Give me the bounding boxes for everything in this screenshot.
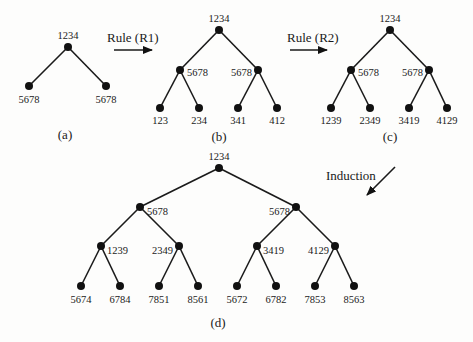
tree-node [347,66,355,74]
edge [29,47,68,86]
tree-node [25,82,33,90]
rule-r1-arrow: Rule (R1) [107,30,159,50]
node-label: 1234 [209,13,231,24]
tree-node [233,282,241,290]
node-label: 412 [269,115,285,126]
tree-node [136,203,144,211]
caption-b: (b) [211,129,226,144]
tree-node [194,282,202,290]
tree-b: 1234 5678 5678 123 234 341 412 (b) [152,13,285,144]
tree-node [253,242,261,250]
node-label: 234 [191,115,208,126]
tree-node [102,82,110,90]
tree-node [254,66,262,74]
tree-c: 1234 5678 5678 1239 2349 3419 4129 (c) [321,13,458,144]
node-label: 5678 [402,67,423,78]
node-label: 3419 [263,245,284,256]
diagram-canvas: 1234 5678 5678 (a) Rule (R1) 1234 5678 5… [0,0,473,342]
tree-node [386,26,394,34]
induction-arrow: Induction [326,167,395,195]
tree-node [405,104,413,112]
tree-node [195,104,203,112]
node-label: 5678 [19,94,40,105]
tree-node [156,104,164,112]
tree-a: 1234 5678 5678 (a) [19,30,117,142]
tree-node [311,282,319,290]
node-label: 123 [152,115,168,126]
tree-node [443,104,451,112]
tree-node [234,104,242,112]
node-label: 8563 [344,294,365,305]
node-label: 8561 [188,294,209,305]
tree-node [292,203,300,211]
node-label: 6782 [266,294,287,305]
node-label: 5672 [227,294,248,305]
tree-node [327,104,335,112]
node-label: 6784 [110,294,132,305]
tree-node [97,242,105,250]
tree-node [272,282,280,290]
caption-a: (a) [58,127,72,142]
tree-node [331,242,339,250]
node-label: 2349 [360,115,381,126]
node-label: 1234 [380,13,402,24]
tree-node [425,66,433,74]
node-label: 5678 [358,67,379,78]
tree-diagram: 1234 5678 5678 (a) Rule (R1) 1234 5678 5… [0,0,473,342]
node-label: 5674 [71,294,93,305]
node-label: 1234 [58,30,80,41]
caption-d: (d) [210,315,225,330]
node-label: 1239 [107,245,128,256]
node-label: 4129 [437,115,458,126]
rule-r2-label: Rule (R2) [287,30,339,45]
node-label: 3419 [399,115,420,126]
tree-node [116,282,124,290]
node-label: 5678 [231,67,252,78]
induction-label: Induction [326,168,376,183]
node-label: 4129 [308,245,329,256]
rule-r1-label: Rule (R1) [107,30,159,45]
node-label: 7851 [149,294,170,305]
tree-node [176,66,184,74]
tree-node [215,26,223,34]
tree-node [64,43,72,51]
node-label: 5678 [269,206,290,217]
edge [68,47,106,86]
node-label: 5678 [187,67,208,78]
node-label: 1239 [321,115,342,126]
node-label: 5678 [147,206,168,217]
node-label: 5678 [96,94,117,105]
tree-node [215,164,223,172]
tree-node [350,282,358,290]
rule-r2-arrow: Rule (R2) [287,30,339,50]
tree-node [155,282,163,290]
node-label: 2349 [152,245,173,256]
tree-node [77,282,85,290]
tree-node [175,242,183,250]
tree-d: 1234 5678 5678 1239 2349 3419 4129 5674 … [71,151,365,330]
node-label: 1234 [209,151,231,162]
node-label: 341 [230,115,246,126]
tree-node [273,104,281,112]
node-label: 7853 [305,294,326,305]
tree-node [366,104,374,112]
caption-c: (c) [383,129,397,144]
